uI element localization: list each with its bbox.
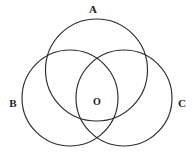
circle-b-label: B	[9, 98, 17, 109]
center-point-label: O	[93, 97, 101, 107]
circle-c-label: C	[178, 98, 186, 109]
venn-diagram-figure: A B C O	[0, 0, 195, 153]
venn-diagram-canvas	[0, 0, 195, 153]
circle-a-label: A	[89, 4, 97, 15]
diagram-background	[0, 0, 195, 153]
